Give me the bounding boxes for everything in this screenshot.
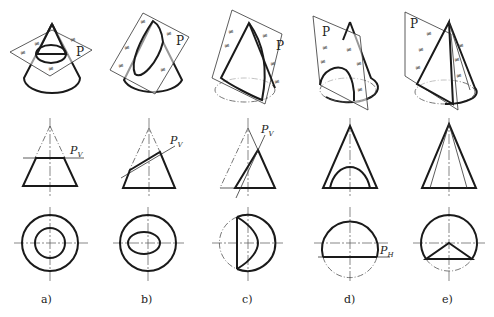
svg-text:≠: ≠ xyxy=(456,72,462,80)
caption-e: e) xyxy=(442,293,453,306)
svg-text:≠: ≠ xyxy=(118,62,124,70)
trace-label-c: PV xyxy=(260,123,274,138)
plane-label-d: P xyxy=(322,25,330,39)
svg-text:≠: ≠ xyxy=(70,36,76,44)
top-view-d: PH xyxy=(314,207,394,281)
svg-text:≠: ≠ xyxy=(270,60,276,68)
svg-text:≠: ≠ xyxy=(458,42,464,50)
front-view-b: PV xyxy=(121,118,183,196)
svg-text:≠: ≠ xyxy=(160,66,166,74)
plane-label-e: P xyxy=(410,17,418,31)
caption-b: b) xyxy=(141,293,152,306)
plane-label-c: P xyxy=(276,39,284,53)
svg-text:≠: ≠ xyxy=(166,30,172,38)
top-view-a xyxy=(14,207,88,281)
pictorial-e: P ≠≠≠≠≠≠ xyxy=(405,12,477,110)
pictorial-c: P ≠≠≠≠≠ xyxy=(212,10,284,104)
front-view-c: PV xyxy=(220,118,275,198)
front-view-a: PV xyxy=(23,118,84,196)
svg-text:≠: ≠ xyxy=(48,65,54,73)
top-view-e xyxy=(413,207,485,281)
caption-c: c) xyxy=(242,293,252,306)
svg-text:≠: ≠ xyxy=(140,18,146,26)
front-view-e xyxy=(422,118,476,196)
svg-text:≠: ≠ xyxy=(415,64,421,72)
svg-text:≠: ≠ xyxy=(34,40,40,48)
plane-label-a: P xyxy=(76,45,84,59)
pictorial-b: P ≠≠≠≠≠ xyxy=(110,13,189,94)
plane-p-c xyxy=(212,10,282,104)
front-view-d xyxy=(323,118,377,196)
svg-text:≠: ≠ xyxy=(320,58,326,66)
trace-label-d: PH xyxy=(379,244,394,259)
svg-text:≠: ≠ xyxy=(274,78,280,86)
trace-label-b: PV xyxy=(169,134,183,149)
svg-text:≠: ≠ xyxy=(262,32,268,40)
top-view-b xyxy=(113,207,184,281)
top-view-c xyxy=(212,207,283,281)
pictorial-a: P ≠≠≠≠ xyxy=(10,24,92,93)
caption-d: d) xyxy=(344,293,355,306)
trace-label-a: PV xyxy=(69,144,83,159)
svg-text:≠: ≠ xyxy=(346,46,352,54)
svg-text:≠: ≠ xyxy=(356,60,362,68)
svg-text:≠: ≠ xyxy=(418,46,424,54)
svg-text:≠: ≠ xyxy=(357,86,363,94)
svg-text:≠: ≠ xyxy=(20,49,26,57)
caption-a: a) xyxy=(41,293,52,306)
svg-text:≠: ≠ xyxy=(224,42,230,50)
svg-text:≠: ≠ xyxy=(322,44,328,52)
plane-label-b: P xyxy=(176,34,184,48)
svg-text:≠: ≠ xyxy=(124,44,130,52)
svg-text:≠: ≠ xyxy=(228,28,234,36)
pictorial-d: P ≠≠≠≠≠ xyxy=(313,16,378,110)
conic-sections-diagram: P ≠≠≠≠ P ≠≠≠≠≠ P ≠≠≠≠≠ P ≠≠≠≠≠ P ≠≠≠≠≠≠ xyxy=(0,0,494,317)
svg-text:≠: ≠ xyxy=(426,30,432,38)
svg-text:≠: ≠ xyxy=(454,56,460,64)
